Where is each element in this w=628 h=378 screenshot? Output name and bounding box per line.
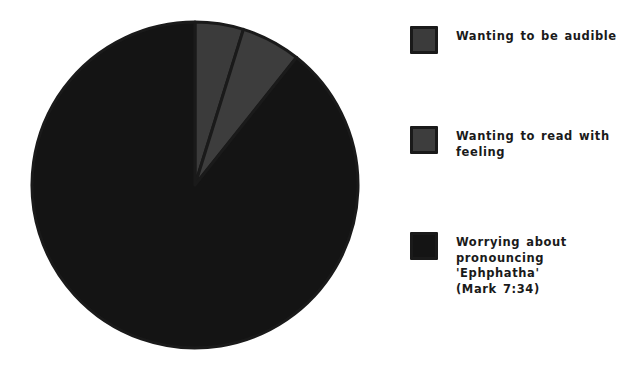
chart-legend: Wanting to be audible Wanting to read wi…	[405, 0, 628, 378]
legend-item-feeling[interactable]: Wanting to read with feeling	[410, 126, 610, 160]
legend-item-audible[interactable]: Wanting to be audible	[410, 26, 617, 54]
pie-chart-page: Wanting to be audible Wanting to read wi…	[0, 0, 628, 378]
pie-chart-svg	[0, 0, 392, 378]
pie-slice-group	[32, 22, 358, 348]
pie-chart-area	[0, 0, 392, 378]
legend-swatch-worrying	[410, 232, 438, 260]
legend-swatch-feeling	[410, 126, 438, 154]
pie-slice[interactable]	[32, 22, 358, 348]
legend-label-audible: Wanting to be audible	[456, 26, 617, 45]
legend-swatch-audible	[410, 26, 438, 54]
legend-item-worrying[interactable]: Worrying about pronouncing 'Ephphatha' (…	[410, 232, 628, 297]
legend-label-worrying: Worrying about pronouncing 'Ephphatha' (…	[456, 232, 628, 297]
legend-label-feeling: Wanting to read with feeling	[456, 126, 610, 160]
